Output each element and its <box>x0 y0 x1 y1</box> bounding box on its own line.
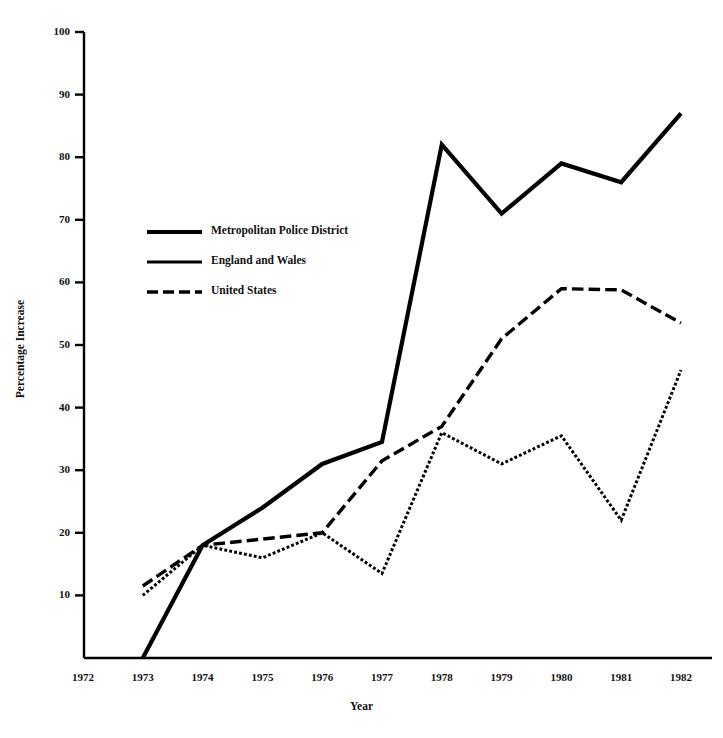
y-tick-label: 70 <box>36 213 70 225</box>
x-tick-label: 1982 <box>651 671 711 683</box>
plot-canvas <box>0 0 723 738</box>
y-tick-label: 50 <box>36 338 70 350</box>
x-tick-label: 1974 <box>173 671 233 683</box>
y-tick-label: 80 <box>36 150 70 162</box>
series-line <box>143 289 681 586</box>
x-tick-label: 1976 <box>292 671 352 683</box>
x-tick-label: 1980 <box>531 671 591 683</box>
x-axis-title: Year <box>0 700 723 712</box>
x-tick-label: 1973 <box>113 671 173 683</box>
series-line <box>143 370 681 595</box>
y-tick-label: 20 <box>36 526 70 538</box>
axes-group <box>75 32 712 658</box>
legend-item-label: United States <box>211 284 277 296</box>
x-tick-label: 1979 <box>472 671 532 683</box>
x-tick-label: 1977 <box>352 671 412 683</box>
legend-item-label: Metropolitan Police District <box>211 224 348 236</box>
x-tick-label: 1972 <box>53 671 113 683</box>
x-tick-label: 1975 <box>232 671 292 683</box>
chart-figure: 102030405060708090100 197219731974197519… <box>0 0 723 738</box>
y-tick-label: 30 <box>36 463 70 475</box>
series-line <box>143 113 681 658</box>
legend-swatches-group <box>147 232 202 292</box>
x-tick-label: 1981 <box>591 671 651 683</box>
y-tick-label: 90 <box>36 88 70 100</box>
y-tick-label: 60 <box>36 275 70 287</box>
legend-item-label: England and Wales <box>211 254 306 266</box>
y-tick-label: 100 <box>36 25 70 37</box>
y-tick-label: 10 <box>36 588 70 600</box>
y-tick-label: 40 <box>36 401 70 413</box>
y-axis-title: Percentage Increase <box>14 300 26 398</box>
x-tick-label: 1978 <box>412 671 472 683</box>
data-series-group <box>143 113 681 658</box>
